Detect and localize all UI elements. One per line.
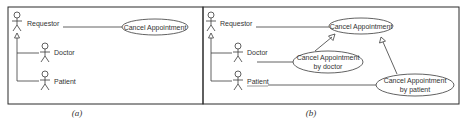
- actor-requestor-b: Requestor: [206, 12, 253, 31]
- actor-patient-b: Patient: [233, 71, 269, 90]
- actor-doctor-b: Doctor: [233, 43, 268, 62]
- actor-requestor-a: Requestor: [12, 12, 60, 31]
- panel-a: Requestor Doctor Patient Cancel Appointm…: [8, 7, 203, 118]
- actor-icon: [40, 71, 50, 90]
- generalization-arrowhead-icon: [209, 33, 214, 38]
- use-case-label-line2: by patient: [400, 86, 430, 94]
- actor-doctor-a: Doctor: [40, 43, 75, 62]
- generalization-by-patient: [380, 37, 398, 74]
- panel-caption: (a): [72, 108, 83, 118]
- panel-caption: (b): [306, 108, 317, 118]
- use-case-cancel-appointment-a: Cancel Appointment: [122, 19, 188, 35]
- generalization-arrowhead-icon: [380, 37, 386, 43]
- actor-icon: [12, 12, 22, 31]
- use-case-label-line1: Cancel Appointment: [297, 54, 360, 62]
- generalization-arrowhead-icon: [15, 33, 20, 38]
- actor-label: Requestor: [27, 20, 60, 28]
- actor-label: Patient: [247, 78, 269, 85]
- use-case-cancel-by-doctor: Cancel Appointment by doctor: [293, 51, 363, 73]
- use-case-cancel-appointment-b: Cancel Appointment: [329, 18, 393, 34]
- use-case-cancel-by-patient: Cancel Appointment by patient: [376, 74, 454, 96]
- panel-b: Requestor Doctor Patient Cancel Appointm…: [203, 7, 459, 118]
- generalization-a: [15, 33, 40, 81]
- use-case-label: Cancel Appointment: [330, 23, 393, 31]
- actor-label: Doctor: [247, 49, 268, 56]
- actor-icon: [40, 43, 50, 62]
- use-case-label: Cancel Appointment: [124, 24, 187, 32]
- actor-icon: [233, 43, 243, 62]
- actor-icon: [233, 71, 243, 90]
- use-case-label-line2: by doctor: [314, 63, 343, 71]
- actor-patient-a: Patient: [40, 71, 76, 90]
- generalization-b: [209, 33, 233, 81]
- use-case-diagram: Requestor Doctor Patient Cancel Appointm…: [0, 0, 466, 123]
- use-case-label-line1: Cancel Appointment: [384, 77, 447, 85]
- actor-icon: [206, 12, 216, 31]
- generalization-by-doctor: [315, 34, 335, 51]
- actor-label: Doctor: [54, 49, 75, 56]
- actor-label: Patient: [54, 78, 76, 85]
- actor-label: Requestor: [220, 20, 253, 28]
